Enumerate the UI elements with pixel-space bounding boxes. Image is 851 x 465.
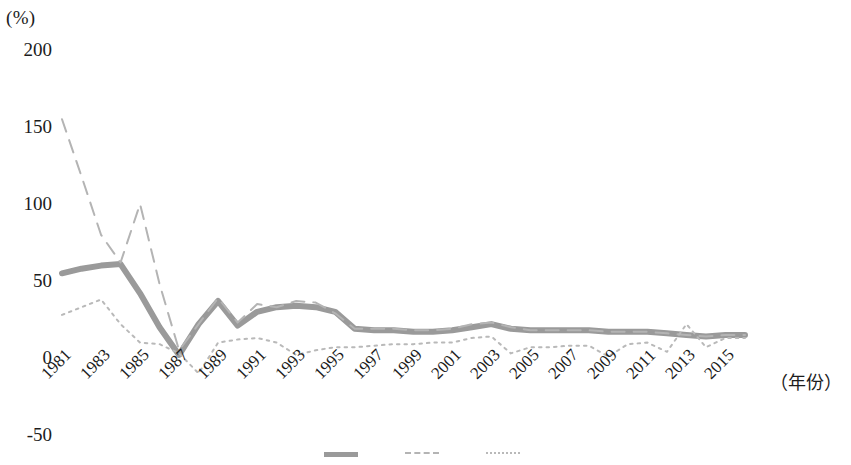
legend-swatch-solid (324, 452, 358, 457)
x-tick-label: 1993 (272, 346, 308, 382)
legend-item (324, 452, 365, 457)
x-tick-label: 1995 (311, 346, 347, 382)
legend-swatch-dashed (405, 452, 439, 454)
x-tick-label: 2009 (584, 346, 620, 382)
x-tick-label: 1985 (116, 346, 152, 382)
legend-swatch-dotted (486, 452, 520, 454)
x-tick-label: 1983 (77, 346, 113, 382)
x-tick-label: 1987 (155, 346, 191, 382)
x-tick-label: 2003 (467, 346, 503, 382)
chart-container: (%) 200150100500-50 19811983198519871989… (0, 0, 851, 465)
x-tick-label: 2001 (428, 346, 464, 382)
x-axis-title: （年份） (770, 374, 842, 392)
x-tick-label: 2015 (701, 346, 737, 382)
legend-item (405, 452, 446, 454)
x-tick-label: 2011 (623, 346, 659, 382)
x-tick-label: 1999 (389, 346, 425, 382)
legend-item (486, 452, 527, 454)
x-tick-label: 2007 (545, 346, 581, 382)
x-tick-label: 2005 (506, 346, 542, 382)
x-tick-label: 1989 (194, 346, 230, 382)
x-tick-label: 1981 (38, 346, 74, 382)
x-axis-tick-labels: 1981198319851987198919911993199519971999… (0, 0, 851, 465)
x-tick-label: 2013 (662, 346, 698, 382)
x-tick-label: 1991 (233, 346, 269, 382)
x-tick-label: 1997 (350, 346, 386, 382)
chart-legend (0, 452, 851, 465)
